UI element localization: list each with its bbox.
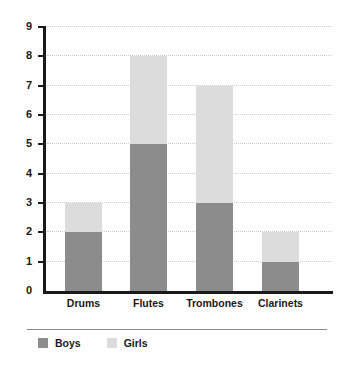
legend-item-girls[interactable]: Girls bbox=[107, 338, 148, 348]
gridline-4 bbox=[47, 173, 331, 175]
y-tick-label-5: 5 bbox=[16, 138, 32, 149]
legend-swatch-boys bbox=[38, 338, 48, 348]
y-tick-label-2: 2 bbox=[16, 226, 32, 237]
gridline-6 bbox=[47, 114, 331, 116]
y-axis-line bbox=[43, 26, 46, 293]
gridline-5 bbox=[47, 143, 331, 145]
bar-flutes[interactable] bbox=[130, 56, 167, 291]
y-tick-label-0: 0 bbox=[16, 285, 32, 296]
legend-item-boys[interactable]: Boys bbox=[38, 338, 81, 348]
bar-drums[interactable] bbox=[65, 203, 102, 291]
gridline-7 bbox=[47, 85, 331, 87]
x-tick-label-clarinets: Clarinets bbox=[239, 297, 322, 309]
gridline-8 bbox=[47, 55, 331, 57]
bar-segment-flutes-boys[interactable] bbox=[130, 144, 167, 291]
bar-clarinets[interactable] bbox=[262, 232, 299, 291]
bar-segment-drums-boys[interactable] bbox=[65, 232, 102, 291]
chart-legend: BoysGirls bbox=[38, 338, 148, 348]
legend-label-boys: Boys bbox=[55, 338, 81, 348]
bar-segment-trombones-boys[interactable] bbox=[196, 203, 233, 291]
y-tick-label-1: 1 bbox=[16, 256, 32, 267]
stacked-bar-chart: 0123456789 DrumsFlutesTrombonesClarinets… bbox=[0, 0, 345, 368]
y-tick-label-8: 8 bbox=[16, 50, 32, 61]
y-tick-label-4: 4 bbox=[16, 168, 32, 179]
y-tick-label-3: 3 bbox=[16, 197, 32, 208]
bar-segment-drums-girls[interactable] bbox=[65, 203, 102, 232]
y-tick-label-7: 7 bbox=[16, 80, 32, 91]
legend-swatch-girls bbox=[107, 338, 117, 348]
bar-segment-trombones-girls[interactable] bbox=[196, 86, 233, 203]
bar-segment-clarinets-girls[interactable] bbox=[262, 232, 299, 261]
legend-separator bbox=[27, 329, 327, 330]
bar-trombones[interactable] bbox=[196, 86, 233, 291]
y-tick-label-6: 6 bbox=[16, 109, 32, 120]
bar-segment-flutes-girls[interactable] bbox=[130, 56, 167, 144]
chart-screenshot: 0123456789 DrumsFlutesTrombonesClarinets… bbox=[0, 0, 345, 368]
legend-label-girls: Girls bbox=[124, 338, 148, 348]
gridline-9 bbox=[47, 26, 331, 28]
x-axis-line bbox=[43, 291, 333, 294]
bar-segment-clarinets-boys[interactable] bbox=[262, 262, 299, 291]
y-tick-label-9: 9 bbox=[16, 21, 32, 32]
